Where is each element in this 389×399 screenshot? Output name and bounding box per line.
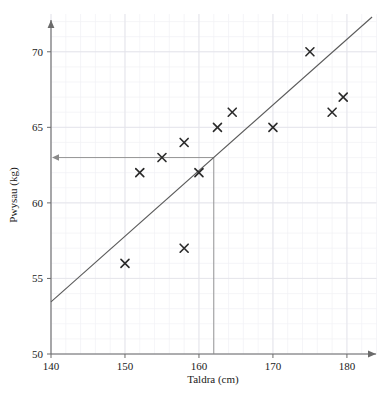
x-tick-label: 170 xyxy=(265,360,282,372)
y-tick-label: 65 xyxy=(32,121,44,133)
y-axis-title: Pwysau (kg) xyxy=(7,167,20,223)
scatter-chart: 140150160170180 5055606570 Taldra (cm) P… xyxy=(0,0,389,399)
y-tick-label: 55 xyxy=(32,272,44,284)
x-tick-label: 160 xyxy=(191,360,208,372)
x-tick-label: 140 xyxy=(43,360,60,372)
x-tick-label: 150 xyxy=(117,360,134,372)
x-axis-title: Taldra (cm) xyxy=(187,373,239,386)
y-tick-label: 60 xyxy=(32,197,44,209)
y-tick-label: 70 xyxy=(32,46,44,58)
y-tick-label: 50 xyxy=(32,348,44,360)
x-tick-label: 180 xyxy=(339,360,356,372)
chart-canvas: 140150160170180 5055606570 Taldra (cm) P… xyxy=(0,0,389,399)
